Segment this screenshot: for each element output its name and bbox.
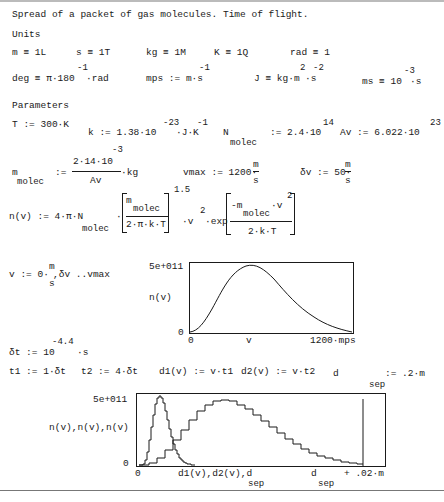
vmax-num: m: [253, 160, 259, 170]
vmax-base: vmax := 1200·: [183, 168, 257, 178]
plot2-ymin: 0: [123, 459, 129, 469]
m-numerator: 2·14·10: [73, 157, 113, 167]
worksheet-title: Spread of a packet of gas molecules. Tim…: [12, 10, 308, 20]
deg-base: deg ≡ π·180: [12, 74, 75, 84]
param-T[interactable]: T := 300·K: [12, 120, 69, 130]
frac1-num-sub: molec: [133, 204, 160, 214]
k-base: k := 1.38·10: [88, 128, 156, 138]
v-squared: ·v: [182, 217, 193, 227]
plot2-x0: 0: [135, 469, 141, 479]
N-base: N: [223, 128, 229, 138]
vmax-den: s: [253, 176, 259, 186]
power-1.5: 1.5: [174, 185, 190, 195]
dt-s: ·s: [77, 348, 88, 358]
plot2-ymax: 5e+011: [93, 395, 127, 405]
plot2-frame[interactable]: [136, 393, 386, 467]
J-exp-s: -2: [313, 63, 324, 73]
J-s: ·s: [305, 74, 316, 84]
N-subscript: molec: [230, 138, 257, 148]
n-lhs: n(v) := 4·π·N: [9, 212, 83, 222]
m-subscript: molec: [17, 177, 44, 187]
plot2-xlabel-sub: sep: [248, 479, 264, 489]
bracket-right-1: [164, 193, 169, 233]
J-exp-m: 2: [300, 63, 305, 73]
units-heading: Units: [12, 30, 41, 40]
v-squared-exp: 2: [200, 206, 205, 216]
plot1-x0: 0: [188, 336, 194, 346]
k-units: ·J·K: [176, 128, 199, 138]
frac1-bar: [126, 216, 168, 217]
plot2-xmax-offset: + .02·m: [344, 469, 384, 479]
k-exp2: -1: [197, 118, 208, 128]
param-t2[interactable]: t2 := 4·δt: [81, 367, 138, 377]
frac2-num-sub: molec: [243, 209, 270, 219]
top-border: [0, 0, 444, 2]
func-d1[interactable]: d1(v) := v·t1: [159, 367, 233, 377]
unit-K[interactable]: K ≡ 1Q: [214, 48, 248, 58]
plot2-curves: [137, 394, 385, 466]
N-exponent: 14: [323, 118, 334, 128]
plot2-xmax-sub: sep: [318, 479, 334, 489]
vmax-fraction-bar: [253, 171, 259, 172]
J-base: J ≡ kg·m: [254, 74, 300, 84]
dt-exponent: -4.4: [52, 337, 74, 347]
unit-s[interactable]: s ≡ 1T: [76, 48, 110, 58]
ms-exponent: -3: [404, 66, 415, 76]
v-range-den: s: [49, 279, 55, 289]
exp-fn: ·exp: [205, 217, 228, 227]
plot1-ymin: 0: [178, 328, 184, 338]
m-num-exp: -3: [112, 145, 123, 155]
v-range-a: v := 0·: [9, 270, 49, 280]
unit-kg[interactable]: kg ≡ 1M: [146, 48, 186, 58]
bottom-border: [0, 490, 444, 491]
Av-base: Av := 6.022·10: [340, 128, 420, 138]
func-d2[interactable]: d2(v) := v·t2: [241, 367, 315, 377]
dv-den: s: [345, 176, 351, 186]
plot2-xmax-d: d: [311, 469, 317, 479]
dv-num: m: [345, 160, 351, 170]
unit-m[interactable]: m ≡ 1L: [12, 48, 46, 58]
plot1-curve: [190, 263, 353, 333]
v-range-b: ,δv ..vmax: [53, 270, 110, 280]
plot1-xlabel: v: [246, 336, 252, 346]
n-dot: ·: [116, 212, 122, 222]
plot1-frame[interactable]: [189, 262, 354, 334]
param-t1[interactable]: t1 := 1·δt: [9, 367, 66, 377]
parameters-heading: Parameters: [12, 101, 69, 111]
dv-base: δv := 50·: [300, 168, 351, 178]
plot1-ylabel: n(v): [149, 293, 172, 303]
bracket-right-2: [290, 193, 295, 235]
frac1-num: m: [126, 196, 132, 206]
frac2-den: 2·k·T: [248, 227, 277, 237]
unit-rad[interactable]: rad ≡ 1: [290, 48, 330, 58]
m-unit: ·kg: [121, 168, 138, 178]
dsep-sub: sep: [369, 380, 385, 390]
ms-base: ms ≡ 10: [362, 77, 402, 87]
frac2-bar: [230, 221, 292, 222]
N-value: := 2.4·10: [270, 128, 321, 138]
deg-rad: ·rad: [86, 74, 109, 84]
frac1-den: 2·π·k·T: [126, 220, 166, 230]
plot2-ylabel: n(v),n(v),n(v): [49, 423, 129, 433]
ms-s: ·s: [410, 77, 421, 87]
n-lhs-sub: molec: [82, 224, 109, 234]
frac2-num: -m: [231, 201, 242, 211]
mps-base: mps := m·s: [146, 74, 203, 84]
plot1-ymax: 5e+011: [149, 262, 183, 272]
m-denominator: Av: [90, 176, 101, 186]
dsep-base: d: [333, 369, 339, 379]
frac2-num-v: ·v: [271, 201, 282, 211]
dv-fraction-bar: [345, 171, 351, 172]
dsep-value: := .2·m: [385, 369, 425, 379]
m-assign: :=: [55, 168, 66, 178]
Av-exponent: 23: [430, 118, 441, 128]
dt-base: δt := 10: [9, 348, 55, 358]
deg-exponent: -1: [77, 63, 88, 73]
mps-exponent: -1: [199, 63, 210, 73]
plot1-xmax: 1200·mps: [310, 336, 356, 346]
plot2-xlabel: d1(v),d2(v),d: [178, 469, 252, 479]
m-fraction-bar: [72, 171, 121, 172]
